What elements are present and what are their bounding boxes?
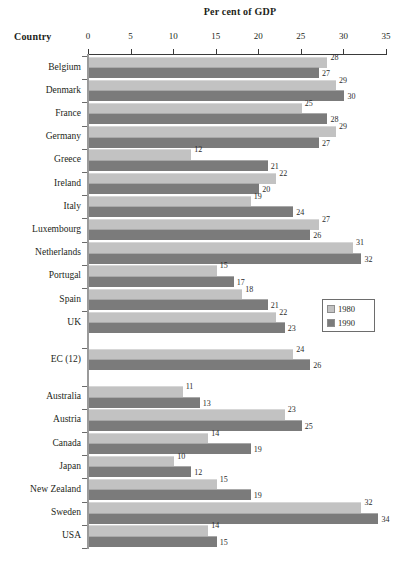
y-tick-mark <box>82 126 87 127</box>
bar-value-1980: 14 <box>211 521 219 530</box>
legend-swatch-1990 <box>327 319 335 327</box>
y-tick-mark <box>82 432 87 433</box>
category-label: Luxembourg <box>0 224 81 234</box>
chart-row: Canada1419 <box>0 432 403 455</box>
y-tick-mark <box>82 311 87 312</box>
category-label: Belgium <box>0 62 81 72</box>
y-tick-mark <box>82 56 87 57</box>
bar-value-1980: 22 <box>279 308 287 317</box>
x-axis-tick-labels: 05101520253035 <box>0 31 403 44</box>
category-label: Sweden <box>0 507 81 517</box>
bar-1990 <box>89 397 200 408</box>
bar-value-1990: 32 <box>364 255 372 264</box>
y-tick-mark <box>82 195 87 196</box>
bar-value-1980: 32 <box>364 498 372 507</box>
bar-1980 <box>89 386 183 397</box>
bar-value-1990: 30 <box>347 92 355 101</box>
bar-1980 <box>89 173 276 184</box>
bar-value-1990: 15 <box>220 538 228 547</box>
y-tick-mark <box>82 288 87 289</box>
bar-1990 <box>89 489 251 500</box>
category-label: EC (12) <box>0 354 81 364</box>
y-tick-mark <box>82 525 87 526</box>
bar-1990 <box>89 229 310 240</box>
bar-1990 <box>89 67 319 78</box>
category-label: Portugal <box>0 270 81 280</box>
bar-value-1990: 28 <box>330 115 338 124</box>
bar-value-1990: 24 <box>296 208 304 217</box>
bar-value-1990: 21 <box>271 301 279 310</box>
y-tick-mark <box>82 478 87 479</box>
bar-value-1980: 14 <box>211 429 219 438</box>
chart-row: EC (12)2426 <box>0 348 403 371</box>
bar-value-1980: 22 <box>279 169 287 178</box>
y-tick-mark <box>82 218 87 219</box>
bar-1980 <box>89 196 251 207</box>
bar-value-1980: 29 <box>339 76 347 85</box>
chart-row: Japan1012 <box>0 455 403 478</box>
x-tick-label-15: 15 <box>204 31 228 41</box>
y-tick-mark <box>82 348 87 349</box>
y-tick-mark <box>82 149 87 150</box>
y-tick-mark <box>82 455 87 456</box>
bar-1990 <box>89 183 259 194</box>
chart-row: New Zealand1519 <box>0 478 403 501</box>
bar-value-1980: 28 <box>330 53 338 62</box>
x-tick-label-0: 0 <box>76 31 100 41</box>
bar-value-1980: 31 <box>356 238 364 247</box>
category-label: Germany <box>0 131 81 141</box>
bar-value-1980: 25 <box>305 99 313 108</box>
bar-1980 <box>89 502 361 513</box>
category-label: France <box>0 108 81 118</box>
legend-swatch-1980 <box>327 305 335 313</box>
y-tick-mark <box>82 242 87 243</box>
chart-row: Luxembourg2726 <box>0 218 403 241</box>
bar-1990 <box>89 322 285 333</box>
bar-value-1990: 12 <box>194 468 202 477</box>
bar-1980 <box>89 433 208 444</box>
bar-value-1980: 12 <box>194 145 202 154</box>
bar-value-1980: 29 <box>339 122 347 131</box>
legend-item-1990: 1990 <box>327 317 355 329</box>
bar-value-1990: 27 <box>322 69 330 78</box>
bar-value-1990: 23 <box>288 324 296 333</box>
bar-value-1980: 23 <box>288 405 296 414</box>
bar-1990 <box>89 443 251 454</box>
y-tick-mark <box>82 409 87 410</box>
bar-chart: Per cent of GDP Country 05101520253035 B… <box>0 0 403 567</box>
chart-row: Austria2325 <box>0 409 403 432</box>
category-label: USA <box>0 530 81 540</box>
bar-1980 <box>89 80 336 91</box>
x-tick-label-20: 20 <box>246 31 270 41</box>
bar-value-1990: 20 <box>262 185 270 194</box>
x-tick-label-25: 25 <box>289 31 313 41</box>
bar-value-1990: 34 <box>381 515 389 524</box>
chart-row: Australia1113 <box>0 386 403 409</box>
category-label: Italy <box>0 201 81 211</box>
x-tick-label-30: 30 <box>331 31 355 41</box>
category-label: UK <box>0 317 81 327</box>
legend-label-1990: 1990 <box>338 317 355 329</box>
bar-value-1980: 18 <box>245 285 253 294</box>
bar-value-1990: 19 <box>254 491 262 500</box>
bar-value-1990: 21 <box>271 162 279 171</box>
bar-1980 <box>89 126 336 137</box>
bar-value-1990: 13 <box>203 399 211 408</box>
bar-value-1990: 19 <box>254 445 262 454</box>
bar-value-1990: 17 <box>237 278 245 287</box>
x-tick-label-5: 5 <box>119 31 143 41</box>
bar-1980 <box>89 149 191 160</box>
bar-value-1980: 15 <box>220 261 228 270</box>
y-tick-mark <box>82 548 87 549</box>
category-label: New Zealand <box>0 484 81 494</box>
legend-item-1980: 1980 <box>327 303 355 315</box>
legend-label-1980: 1980 <box>338 303 355 315</box>
category-label: Japan <box>0 461 81 471</box>
x-tick-label-10: 10 <box>161 31 185 41</box>
chart-row: USA1415 <box>0 525 403 548</box>
chart-row: Italy1924 <box>0 195 403 218</box>
bar-1980 <box>89 219 319 230</box>
y-tick-mark <box>82 386 87 387</box>
bar-value-1980: 27 <box>322 215 330 224</box>
bar-value-1980: 24 <box>296 345 304 354</box>
